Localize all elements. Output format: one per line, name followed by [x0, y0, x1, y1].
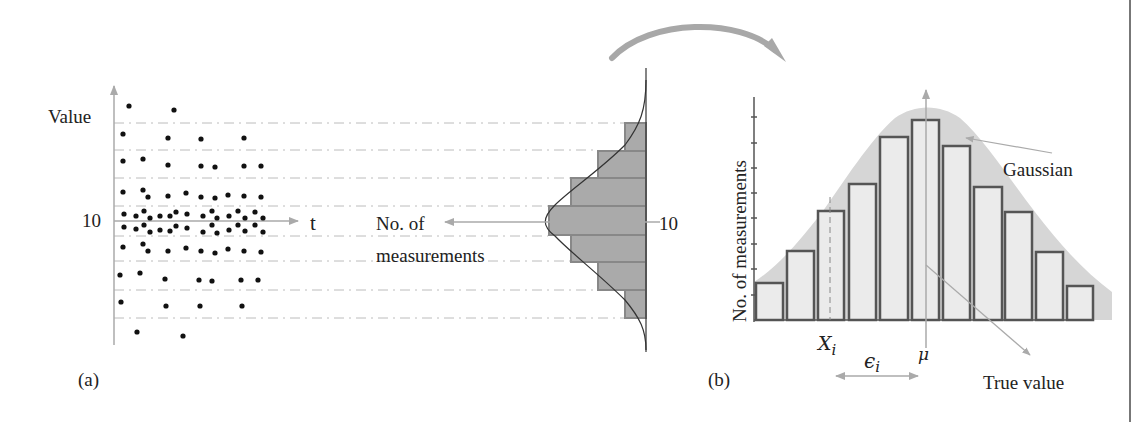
- count-axis-label-line1: No. of: [376, 213, 425, 234]
- xi-label: Xi: [816, 332, 837, 359]
- count-axis-label: No. of measurements: [729, 160, 750, 322]
- histogram-bars: [549, 123, 646, 318]
- histogram-center-label: 10: [659, 213, 678, 234]
- true-value-label: True value: [983, 372, 1064, 393]
- figure-canvas: Value 10 t (a) No. of measurements 10: [0, 0, 1145, 422]
- panel-a-scatter: Value 10 t (a): [48, 86, 625, 391]
- panel-b-histogram: No. of measurements Gaussian True value …: [708, 90, 1112, 393]
- count-axis-label-line2: measurements: [376, 245, 485, 266]
- histogram-bars: [756, 120, 1093, 320]
- epsilon-label: ϵi: [864, 349, 880, 376]
- value-axis-label: Value: [48, 106, 91, 127]
- time-axis-label: t: [310, 211, 316, 235]
- transition-arrow: [612, 27, 786, 62]
- panel-a-label: (a): [78, 369, 99, 391]
- center-value-label: 10: [82, 210, 101, 231]
- panel-b-label: (b): [708, 369, 730, 391]
- panel-a-histogram: No. of measurements 10: [376, 68, 678, 352]
- mu-label: μ: [918, 344, 929, 364]
- gaussian-label: Gaussian: [1003, 159, 1073, 180]
